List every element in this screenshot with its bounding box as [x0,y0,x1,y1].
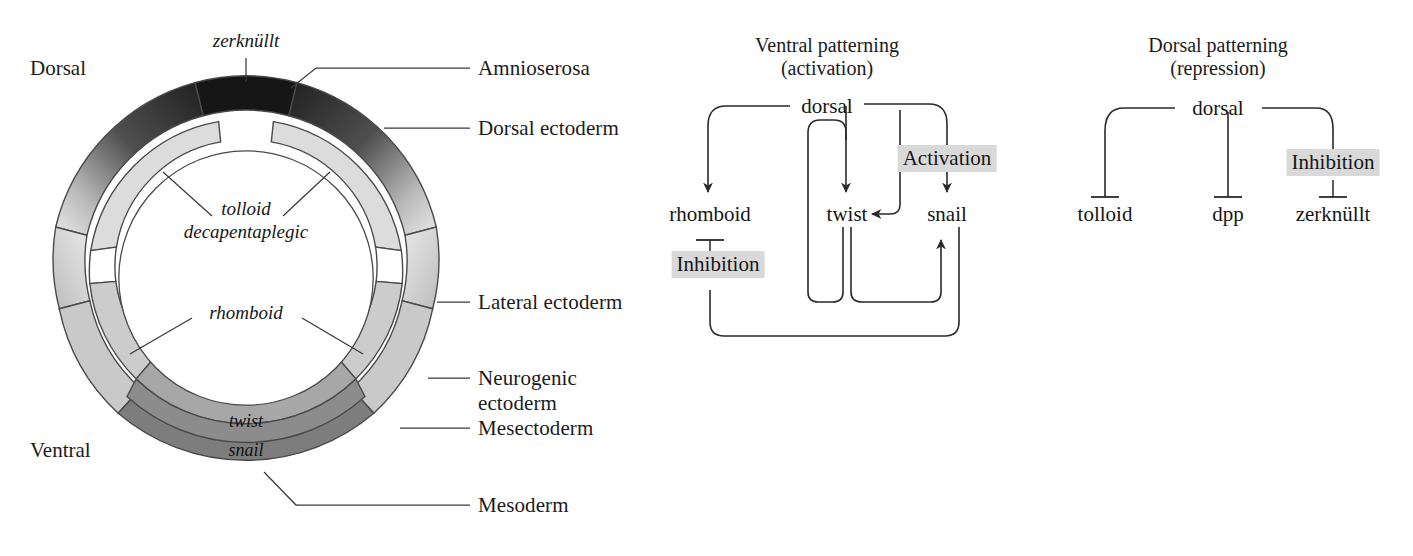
ventral-node-snail[interactable]: snail [927,202,967,227]
edge-snail-inhibits-rhomboid [710,227,959,336]
embryo-gene-decapentaplegic: decapentaplegic [184,221,309,243]
figure-canvas: Dorsal Ventral zerknüllt tolloid decapen… [0,0,1413,556]
embryo-gene-twist: twist [229,411,263,432]
ventral-node-rhomboid[interactable]: rhomboid [669,202,751,227]
dorsal-node-dpp[interactable]: dpp [1212,202,1244,227]
ventral-tag-inhibition-text: Inhibition [672,251,765,278]
ventral-tag-activation: Activation [898,146,997,171]
dorsal-tag-inhibition: Inhibition [1287,150,1380,175]
leader-amnioserosa [291,68,470,88]
edge-dorsal-inhibits-tolloid [1105,108,1175,197]
ventral-tag-inhibition: Inhibition [672,252,765,277]
edge-dorsal-inhibits-zerknullt [1262,108,1333,150]
ventral-node-twist[interactable]: twist [827,202,868,227]
embryo-core [119,151,373,405]
edge-dorsal-to-rhomboid [708,106,790,192]
diagram-graphics [0,0,1413,556]
leader-mesoderm [264,472,470,505]
dorsal-node-zerknullt[interactable]: zerknüllt [1296,202,1371,227]
callout-label-amnioserosa: Amnioserosa [478,56,590,81]
embryo-gene-zerknullt: zerknüllt [213,30,280,52]
orientation-label-dorsal: Dorsal [30,56,86,81]
ring-segment-lateral-ectoderm-left [53,227,90,309]
orientation-label-ventral: Ventral [30,438,91,463]
dorsal-tag-inhibition-text: Inhibition [1287,149,1380,176]
callout-label-dorsal-ectoderm: Dorsal ectoderm [478,116,619,141]
edge-snail-to-twist [872,110,900,214]
ventral-tag-activation-text: Activation [898,145,997,172]
dorsal-node-dorsal[interactable]: dorsal [1192,96,1243,121]
ring-segment-lateral-ectoderm-right [402,227,439,309]
embryo-gene-rhomboid: rhomboid [209,302,283,324]
embryo-gene-snail: snail [228,440,263,461]
inner-ring-left-gap [89,247,116,284]
callout-label-neurogenic-ectoderm: Neurogenic [478,366,577,391]
callout-label-neurogenic-ectoderm-line2: ectoderm [478,391,557,416]
embryo-cross-section [53,76,439,460]
callout-label-mesectoderm: Mesectoderm [478,416,593,441]
callout-label-mesoderm: Mesoderm [478,493,569,518]
ventral-panel-title-line2: (activation) [781,57,873,79]
dorsal-panel-title-line2: (repression) [1170,57,1266,79]
dorsal-node-tolloid[interactable]: tolloid [1078,202,1133,227]
edge-twist-to-snail [851,227,941,302]
callout-label-lateral-ectoderm: Lateral ectoderm [478,290,622,315]
dorsal-panel-title-line1: Dorsal patterning [1148,34,1287,56]
inner-ring-right-gap [376,247,403,284]
ventral-panel-title-line1: Ventral patterning [755,34,899,56]
ventral-node-dorsal[interactable]: dorsal [801,94,852,119]
embryo-gene-tolloid: tolloid [221,198,271,220]
